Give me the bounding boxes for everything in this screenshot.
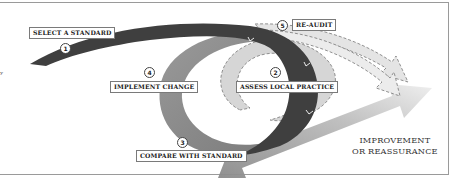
step-1-number: 1 <box>60 43 71 54</box>
outcome-line-1: IMPROVEMENT <box>352 135 438 146</box>
step-4-label: IMPLEMENT CHANGE <box>110 81 198 93</box>
chevron-icon <box>152 113 156 118</box>
step-3-label: COMPARE WITH STANDARD <box>136 150 247 162</box>
chevron-icon <box>160 42 164 46</box>
step-2-number: 2 <box>270 67 281 78</box>
step-5-label: RE-AUDIT <box>292 19 336 31</box>
outcome-text: IMPROVEMENT OR REASSURANCE <box>352 135 438 157</box>
step-5-number: 5 <box>277 20 288 31</box>
chevron-icon <box>236 110 240 115</box>
step-2-label: ASSESS LOCAL PRACTICE <box>236 81 338 93</box>
step-3-number: 3 <box>177 137 188 148</box>
edge-mark: ʸ <box>0 70 3 79</box>
outcome-line-2: OR REASSURANCE <box>352 146 438 157</box>
step-4-number: 4 <box>144 67 155 78</box>
step-1-label: SELECT A STANDARD <box>29 27 115 39</box>
